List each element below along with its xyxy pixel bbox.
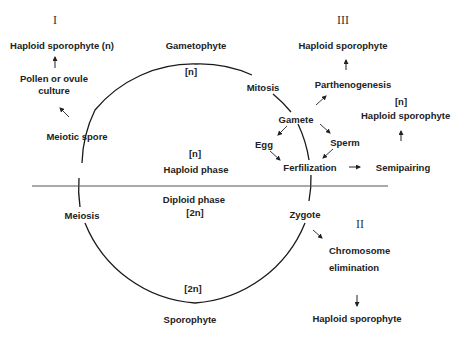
mitosis-label: Mitosis [247,82,280,94]
arrow-gamete-to-egg [278,126,287,135]
pollen-ovule-culture-label-line2: culture [38,85,70,97]
sperm-label: Sperm [330,137,360,149]
meiosis-label: Meiosis [65,210,100,222]
semipairing-label: Semipairing [376,162,430,174]
arrow-gamete-to-parthenogenesis [316,96,326,105]
gametophyte-ploidy-label: [n] [185,66,197,78]
sporophyte-ploidy-label: [2n] [184,283,201,295]
pollen-ovule-culture-label: Pollen or ovule [20,73,88,85]
egg-label: Egg [255,139,273,151]
diploid-phase-label: Diploid phase [163,194,225,206]
meiotic-spore-label: Meiotic spore [46,131,107,143]
gamete-label: Gamete [279,114,314,126]
pathway-III-semipairing-result: Haploid sporophyte [361,110,450,122]
arrow-zygote-to-chromosome-elimination [313,230,322,238]
haploid-ploidy-label: [n] [189,148,201,160]
parthenogenesis-label: Parthenogenesis [315,79,392,91]
pathway-II-numeral: II [356,217,364,232]
gametophyte-label: Gametophyte [166,40,227,52]
cycle-arc-mitosis-gamete [273,94,291,112]
arrow-sperm-to-fertilization [323,149,333,158]
zygote-label: Zygote [289,209,320,221]
arrow-gamete-to-sperm [320,124,330,133]
arrow-meiotic-to-pollen [60,108,69,117]
sporophyte-label: Sporophyte [164,314,217,326]
cycle-arc-left [79,178,80,207]
life-cycle-circle [79,64,311,303]
pathway-II-result-label: Haploid sporophyte [312,313,401,325]
semipairing-ploidy-label: [n] [395,96,407,108]
pathway-I-result-label: Haploid sporophyte (n) [10,40,114,52]
pathway-I-numeral: I [53,13,57,28]
cycle-arc-gamete-fertilization [298,124,309,160]
pathway-III-numeral: III [337,13,349,28]
chromosome-elimination-label-line2: elimination [329,262,379,274]
pathway-III-parthenogenesis-result: Haploid sporophyte [298,40,387,52]
cycle-arc-top [82,64,252,163]
cycle-arc-fertilization-zygote [309,175,311,201]
chromosome-elimination-label: Chromosome [329,245,390,257]
arrow-egg-to-fertilization [270,151,280,160]
fertilization-label: Ferfilization [283,162,336,174]
diploid-ploidy-label: [2n] [186,207,203,219]
haploid-phase-label: Haploid phase [164,164,229,176]
